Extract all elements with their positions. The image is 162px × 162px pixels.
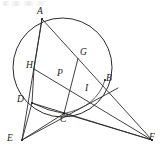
vertex-dot-e: [21, 139, 23, 141]
point-label-e: E: [7, 134, 13, 144]
point-label-h: H: [26, 61, 33, 71]
line-e-to-b: [22, 88, 118, 140]
line-h-p-i-f: [34, 69, 152, 140]
point-label-p: P: [57, 69, 63, 79]
vertex-dot-d: [31, 102, 33, 104]
point-label-i: I: [85, 84, 88, 94]
point-label-f: F: [149, 133, 155, 143]
point-label-b: B: [106, 74, 112, 84]
geometry-figure: A G B H P I D C E F: [0, 0, 162, 162]
point-label-g: G: [80, 48, 87, 58]
segment-c-to-g: [64, 59, 78, 114]
vertex-dot-a: [41, 18, 43, 20]
line-a-g-b-f: [42, 19, 152, 140]
point-label-a: A: [37, 7, 43, 17]
geometry-canvas: [0, 0, 162, 162]
line-f-to-d: [32, 103, 152, 140]
point-label-c: C: [60, 115, 66, 125]
point-label-d: D: [17, 95, 24, 105]
